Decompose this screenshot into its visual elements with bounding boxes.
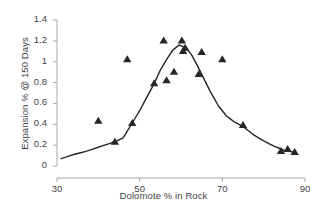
scatter-chart: Expansion % @ 150 Days Dolomote % in Roc… — [0, 0, 327, 212]
data-point-marker — [181, 44, 189, 51]
y-axis-tick-label: 0.2 — [17, 138, 47, 149]
x-axis-tick-label: 70 — [207, 183, 237, 194]
data-point-marker — [94, 117, 102, 124]
data-point-marker — [150, 79, 158, 86]
data-point-marker — [128, 119, 136, 126]
data-point-marker — [170, 68, 178, 75]
data-point-marker — [159, 37, 167, 44]
y-axis-tick-label: 1 — [17, 55, 47, 66]
y-axis-tick-label: 1.2 — [17, 34, 47, 45]
data-point-marker — [197, 48, 205, 55]
fit-curve — [61, 45, 295, 159]
x-axis-tick-label: 90 — [290, 183, 320, 194]
y-axis-tick-label: 1.4 — [17, 13, 47, 24]
y-axis-tick-label: 0.8 — [17, 76, 47, 87]
data-point-marker — [123, 55, 131, 62]
data-point-marker — [178, 37, 186, 44]
data-point-marker — [162, 76, 170, 83]
x-axis-tick-label: 50 — [125, 183, 155, 194]
y-axis-tick-label: 0.6 — [17, 96, 47, 107]
plot-area — [0, 0, 327, 212]
x-axis-tick-label: 30 — [42, 183, 72, 194]
data-point-marker — [283, 145, 291, 152]
y-axis-tick-label: 0.4 — [17, 117, 47, 128]
y-axis-tick-label: 0 — [17, 159, 47, 170]
data-point-marker — [218, 55, 226, 62]
